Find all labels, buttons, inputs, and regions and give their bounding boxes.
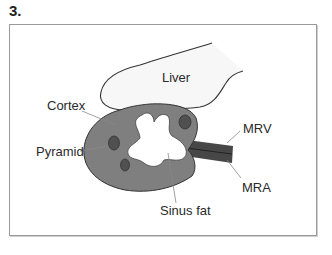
- label-mrv: MRV: [243, 121, 272, 136]
- label-sinus-fat: Sinus fat: [160, 203, 211, 218]
- label-liver: Liver: [162, 70, 191, 85]
- pyramid-3: [121, 159, 130, 171]
- kidney-diagram: Liver Cortex Pyramid Sinus fat MRV MRA: [0, 0, 332, 255]
- label-mra: MRA: [242, 180, 271, 195]
- pyramid-2: [109, 136, 120, 150]
- label-pyramid: Pyramid: [36, 144, 84, 159]
- label-cortex: Cortex: [47, 98, 86, 113]
- pyramid-1: [179, 115, 191, 129]
